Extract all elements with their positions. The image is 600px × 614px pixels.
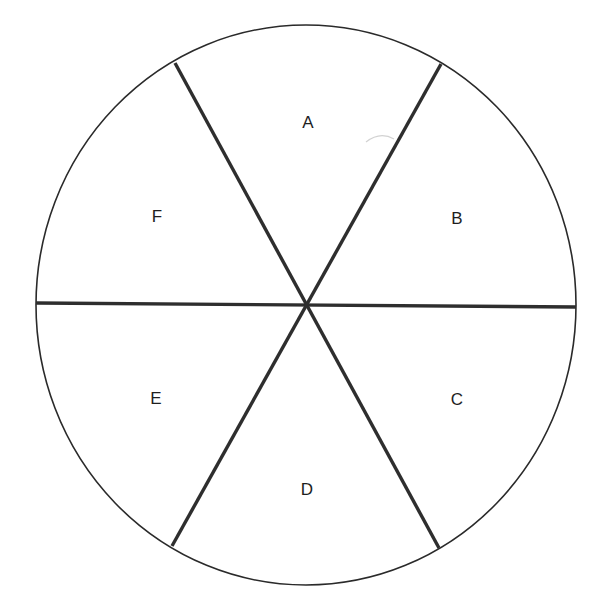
sector-label-b: B <box>451 209 462 228</box>
scan-artifact-mark <box>366 136 394 142</box>
divider-lines <box>36 63 576 548</box>
sector-label-d: D <box>301 480 313 499</box>
sector-label-c: C <box>451 390 463 409</box>
sector-label-f: F <box>152 207 162 226</box>
sector-label-a: A <box>302 113 314 132</box>
six-sector-circle-diagram: A B C D E F <box>0 0 600 614</box>
sector-label-e: E <box>150 389 161 408</box>
